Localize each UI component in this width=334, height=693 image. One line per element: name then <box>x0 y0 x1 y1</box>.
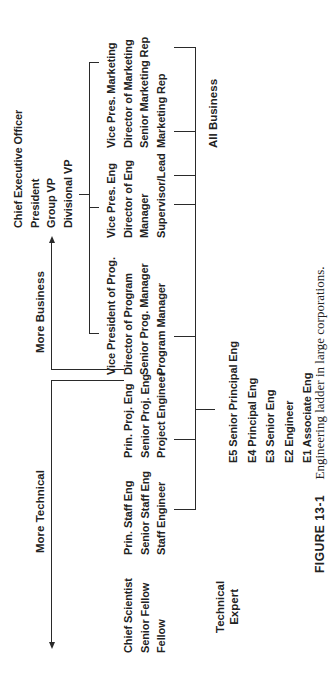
bracket-tick-marketing <box>89 62 99 63</box>
e-level-connector <box>195 409 215 410</box>
senior-project-eng: Senior Proj. Eng <box>137 372 154 458</box>
level-e2: E2 Engineer <box>280 341 299 463</box>
figure-caption: FIGURE 13-1 Engineering ladder in large … <box>312 266 328 573</box>
project-engineer: Project Engineer <box>153 372 170 458</box>
principal-staff-eng: Prin. Staff Eng <box>120 471 137 555</box>
fellow-ladder: Chief Scientist Senior Fellow Fellow <box>120 578 170 653</box>
director-program: Director of Program <box>120 257 137 375</box>
stub-fellow <box>174 175 196 176</box>
engineering-ladder-figure: Chief Executive Officer President Group … <box>0 0 334 693</box>
bracket-tick-program <box>89 333 99 334</box>
business-base <box>195 132 196 205</box>
marketing-ladder: Vice Pres. Marketing Director of Marketi… <box>103 37 169 148</box>
marketing-rep: Marketing Rep <box>153 37 170 148</box>
director-marketing: Director of Marketing <box>120 37 137 148</box>
level-e3: E3 Senior Eng <box>261 341 280 463</box>
director-eng: Director of Eng <box>120 153 137 238</box>
more-business-corner <box>51 369 124 370</box>
technical-expert-label: Technical Expert <box>213 581 241 633</box>
more-business-arrowhead <box>49 236 55 243</box>
more-technical-arrowhead <box>49 642 55 649</box>
figure-caption-text: Engineering ladder in large corporations… <box>312 266 327 479</box>
title-ceo: Chief Executive Officer <box>10 110 27 228</box>
engineering-base <box>195 205 196 510</box>
stub-staff <box>174 47 196 48</box>
principal-project-eng: Prin. Proj. Eng <box>120 372 137 458</box>
more-technical-corner <box>51 380 124 381</box>
supervisor-lead: Supervisor/Lead <box>153 153 170 238</box>
stub-project-eng <box>174 439 196 440</box>
stub-staff-eng <box>174 509 196 510</box>
top-bracket-bar <box>89 63 90 334</box>
program-manager: Program Manager <box>153 257 170 375</box>
staff-ladder: Prin. Staff Eng Senior Staff Eng Staff E… <box>120 471 170 555</box>
program-ladder: Vice President of Prog. Director of Prog… <box>103 257 169 375</box>
stub-program-mgr <box>174 336 196 337</box>
staff-engineer: Staff Engineer <box>153 471 170 555</box>
engineer-levels: E5 Senior Principal Eng E4 Principal Eng… <box>224 341 317 463</box>
more-technical-label: More Technical <box>32 470 49 553</box>
fellow: Fellow <box>153 578 170 653</box>
level-e5: E5 Senior Principal Eng <box>224 341 243 463</box>
chief-scientist: Chief Scientist <box>120 578 137 653</box>
vp-program: Vice President of Prog. <box>103 257 120 375</box>
project-ladder: Prin. Proj. Eng Senior Proj. Eng Project… <box>120 372 170 458</box>
technical-expert-line2: Expert <box>227 581 241 633</box>
eng-mgmt-ladder: Vice Pres. Eng Director of Eng Manager S… <box>103 153 169 238</box>
executive-titles: Chief Executive Officer President Group … <box>10 110 76 228</box>
figure-number: FIGURE 13-1 <box>313 495 327 573</box>
manager: Manager <box>136 153 153 238</box>
title-president: President <box>27 110 44 228</box>
stub-supervisor <box>174 204 196 205</box>
senior-marketing-rep: Senior Marketing Rep <box>136 37 153 148</box>
technical-expert-line1: Technical <box>213 581 227 633</box>
title-divisional-vp: Divisional VP <box>60 110 77 228</box>
all-business-label: All Business <box>205 79 222 148</box>
level-e4: E4 Principal Eng <box>243 341 262 463</box>
more-technical-line <box>51 380 52 643</box>
vp-marketing: Vice Pres. Marketing <box>103 37 120 148</box>
vp-eng: Vice Pres. Eng <box>103 153 120 238</box>
more-business-label: More Business <box>32 271 49 353</box>
senior-fellow: Senior Fellow <box>137 578 154 653</box>
bracket-tick-eng-mgmt <box>89 207 99 208</box>
senior-program-manager: Senior Prog. Manager <box>136 257 153 375</box>
senior-staff-eng: Senior Staff Eng <box>137 471 154 555</box>
title-group-vp: Group VP <box>43 110 60 228</box>
stub-marketing-rep <box>174 131 196 132</box>
more-business-line <box>51 242 52 370</box>
